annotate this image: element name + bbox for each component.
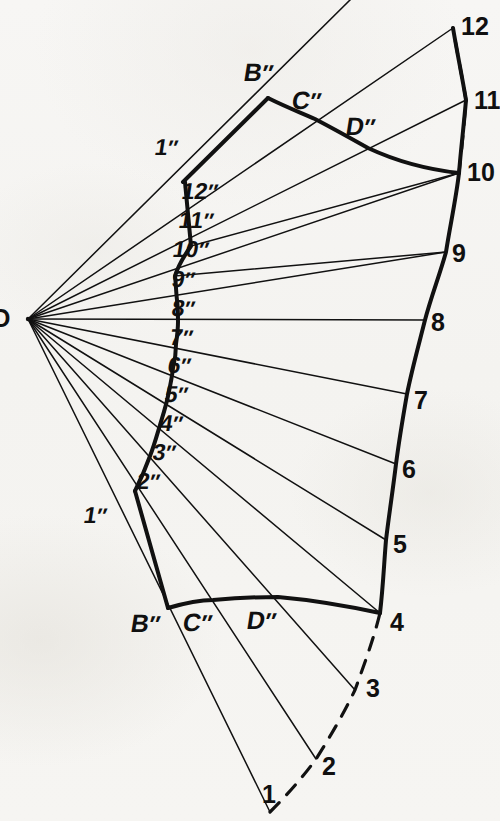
outer-label-9: 9	[452, 241, 466, 266]
generator-line-4	[28, 319, 380, 613]
inner-label-2: 2″	[135, 470, 161, 493]
top-corner-label-C: C″	[290, 88, 323, 113]
bottom-corner-label-B: B″	[129, 611, 162, 636]
inner-label-8: 8″	[170, 297, 196, 320]
outer-label-5: 5	[393, 532, 407, 557]
outer-label-10: 10	[467, 160, 495, 185]
inner-label-1: 1″	[82, 504, 108, 527]
outer-label-8: 8	[431, 310, 445, 335]
outer-label-7: 7	[414, 388, 428, 413]
top-corner-label-B: B″	[242, 60, 275, 85]
top-corner-label-D: D″	[344, 114, 377, 139]
inner-label-4: 4″	[158, 412, 184, 435]
inner-label-12: 12″	[180, 180, 219, 203]
outer-label-12: 12	[461, 14, 489, 39]
generator-line-11	[28, 100, 466, 319]
generator-lines	[28, 0, 466, 812]
outer-label-4: 4	[390, 610, 404, 635]
apex-label-O: O	[0, 306, 10, 331]
top-corner-label-1: 1″	[153, 136, 179, 159]
figure-canvas: O 1 2 3 4 5 6 7 8 9 10 11 12 1″ 2″ 3″ 4″…	[0, 0, 500, 821]
inner-label-6: 6″	[166, 354, 192, 377]
outer-label-6: 6	[402, 457, 416, 482]
generator-line-8	[28, 319, 425, 320]
inner-label-9: 9″	[170, 268, 196, 291]
outer-label-11: 11	[474, 88, 500, 113]
inner-label-3: 3″	[151, 441, 177, 464]
outer-label-2: 2	[322, 754, 336, 779]
inner-label-5: 5″	[163, 383, 189, 406]
bottom-corner-label-C: C″	[181, 610, 214, 635]
outer-curve-dash-1-4	[270, 613, 380, 812]
generator-line-6	[28, 319, 396, 464]
outer-label-3: 3	[366, 676, 380, 701]
chord-10-to-inner	[191, 173, 459, 246]
inner-label-7: 7″	[168, 326, 194, 349]
seam-top-1s-to-B	[183, 98, 268, 182]
inner-label-11: 11″	[177, 209, 215, 232]
generator-line-9	[28, 252, 446, 319]
bottom-corner-label-D: D″	[245, 608, 278, 633]
apex-marker	[26, 317, 30, 321]
outer-label-1: 1	[262, 782, 276, 807]
inner-label-10: 10″	[171, 238, 210, 261]
generator-line-10	[28, 173, 459, 319]
generator-line-12	[28, 28, 453, 319]
